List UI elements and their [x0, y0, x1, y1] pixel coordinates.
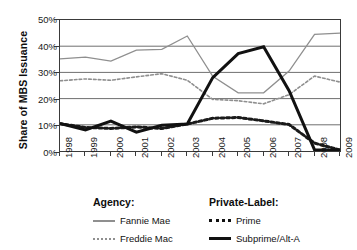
- line-swatch-solid-black-icon: [209, 234, 231, 244]
- legend-group-agency: Agency: Fannie Mae Freddie Mac: [93, 196, 173, 250]
- line-swatch-dotted-black-icon: [209, 216, 231, 226]
- x-tick-label-2006: 2006: [267, 124, 278, 158]
- series-line-fannie-mae: [60, 33, 340, 93]
- x-tick-label-1998: 1998: [63, 124, 74, 158]
- x-tick-mark-2003: [186, 152, 187, 156]
- line-swatch-solid-gray-icon: [93, 216, 115, 226]
- x-tick-label-2002: 2002: [165, 124, 176, 158]
- legend-label: Subprime/Alt-A: [236, 233, 300, 244]
- legend-label: Freddie Mac: [120, 233, 173, 244]
- x-tick-label-2008: 2008: [318, 124, 329, 158]
- line-swatch-dotted-gray-icon: [93, 234, 115, 244]
- legend-group-private-label: Private-Label: Prime Subprime/Alt-A: [209, 196, 300, 250]
- x-tick-mark-1999: [84, 152, 85, 156]
- x-tick-label-2004: 2004: [216, 124, 227, 158]
- x-tick-mark-2002: [161, 152, 162, 156]
- legend-group-title: Private-Label:: [209, 196, 300, 208]
- x-tick-label-2005: 2005: [241, 124, 252, 158]
- x-tick-label-1999: 1999: [88, 124, 99, 158]
- y-tick-label-10: 10%: [17, 121, 57, 131]
- x-tick-mark-2008: [314, 152, 315, 156]
- x-tick-mark-2006: [263, 152, 264, 156]
- x-tick-mark-2001: [135, 152, 136, 156]
- legend-item-subprime-alt-a: Subprime/Alt-A: [209, 233, 300, 244]
- mbs-issuance-chart: Share of MBS Issuance 50% 40% 30% 20% 10…: [0, 0, 357, 250]
- x-tick-mark-2004: [212, 152, 213, 156]
- legend-group-title: Agency:: [93, 196, 173, 208]
- legend-item-prime: Prime: [209, 215, 300, 226]
- x-tick-mark-2009: [339, 152, 340, 156]
- legend-label: Prime: [236, 215, 261, 226]
- x-tick-label-2003: 2003: [190, 124, 201, 158]
- y-tick-label-50: 50%: [17, 15, 57, 25]
- chart-legend: Agency: Fannie Mae Freddie Mac Private-L…: [0, 196, 357, 250]
- x-tick-mark-1998: [59, 152, 60, 156]
- legend-item-fannie-mae: Fannie Mae: [93, 215, 173, 226]
- legend-item-freddie-mac: Freddie Mac: [93, 233, 173, 244]
- x-tick-label-2000: 2000: [114, 124, 125, 158]
- x-tick-label-2001: 2001: [139, 124, 150, 158]
- x-tick-label-2009: 2009: [343, 124, 354, 158]
- y-tick-label-30: 30%: [17, 68, 57, 78]
- x-tick-label-2007: 2007: [292, 124, 303, 158]
- y-tick-label-0: 0%: [17, 148, 57, 158]
- x-tick-mark-2007: [288, 152, 289, 156]
- x-tick-mark-2005: [237, 152, 238, 156]
- y-tick-label-40: 40%: [17, 42, 57, 52]
- x-tick-mark-2000: [110, 152, 111, 156]
- legend-label: Fannie Mae: [120, 215, 170, 226]
- y-tick-label-20: 20%: [17, 95, 57, 105]
